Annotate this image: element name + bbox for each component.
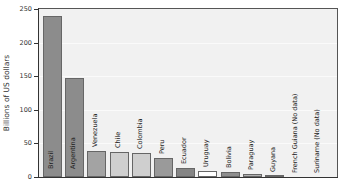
y-tick-label: 150 bbox=[20, 72, 32, 80]
x-axis-line bbox=[34, 177, 338, 178]
y-tick-label: 100 bbox=[20, 106, 32, 114]
bar-chart: Billions of US dollars 050100150200250 B… bbox=[0, 0, 340, 187]
bar-chile bbox=[110, 152, 129, 177]
y-tick-label: 250 bbox=[20, 5, 32, 13]
y-axis-line bbox=[38, 8, 39, 178]
gridline bbox=[39, 43, 337, 44]
bar-ecuador bbox=[176, 168, 195, 177]
bar-colombia bbox=[132, 153, 151, 177]
bar-venezuela bbox=[87, 151, 106, 177]
y-axis-label: Billions of US dollars bbox=[0, 8, 12, 178]
bar-peru bbox=[154, 158, 173, 177]
y-tick-label: 50 bbox=[24, 139, 32, 147]
y-tick-label: 0 bbox=[28, 173, 32, 181]
y-tick-label: 200 bbox=[20, 39, 32, 47]
gridline bbox=[39, 76, 337, 77]
